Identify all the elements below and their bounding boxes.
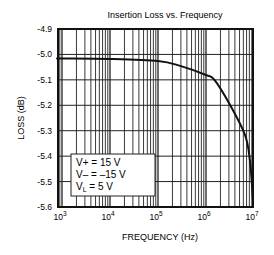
y-axis-ticks: -4.9-5.0-5.1-5.2-5.3-5.4-5.5-5.6 [37,24,52,212]
x-tick-label: 106 [197,210,210,222]
y-tick-label: -5.1 [37,75,52,85]
x-tick-label: 107 [245,210,258,222]
y-tick-label: -4.9 [37,24,52,34]
y-tick-label: -5.0 [37,49,52,59]
x-axis-ticks: 103104105106107 [53,210,258,222]
chart-title: Insertion Loss vs. Frequency [107,10,223,20]
x-tick-label: 105 [149,210,162,222]
insertion-loss-chart: Insertion Loss vs. Frequency -4.9-5.0-5.… [0,0,274,255]
y-tick-label: -5.3 [37,126,52,136]
y-tick-label: -5.2 [37,100,52,110]
x-tick-label: 103 [53,210,66,222]
x-tick-label: 104 [101,210,114,222]
x-axis-label: FREQUENCY (Hz) [122,232,198,242]
legend-line: VL = 5 V [76,181,113,193]
y-tick-label: -5.5 [37,177,52,187]
y-axis-label: LOSS (dB) [16,96,26,140]
y-tick-label: -5.4 [37,151,52,161]
legend-line: V– = –15 V [76,169,126,180]
legend-line: V+ = 15 V [76,157,121,168]
conditions-legend: V+ = 15 VV– = –15 VVL = 5 V [71,154,155,196]
y-tick-label: -5.6 [37,202,52,212]
